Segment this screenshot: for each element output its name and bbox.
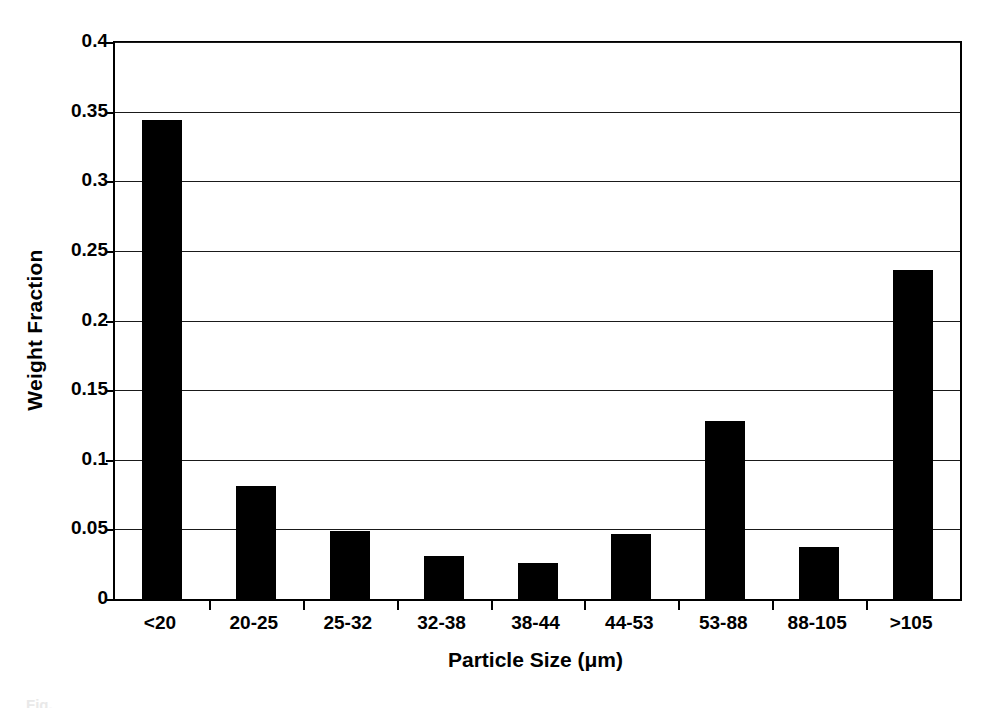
x-tick-label: <20 [144, 612, 176, 634]
bar [424, 556, 464, 599]
y-tick-mark [106, 599, 115, 601]
y-tick-label: 0.2 [46, 309, 108, 331]
bar [518, 563, 558, 599]
y-tick-mark [106, 390, 115, 392]
x-tick-mark [584, 599, 586, 610]
bar [799, 547, 839, 599]
x-tick-mark [772, 599, 774, 610]
x-tick-label: 88-105 [788, 612, 847, 634]
bar [705, 421, 745, 599]
x-tick-label: 38-44 [511, 612, 560, 634]
y-tick-label: 0.1 [46, 448, 108, 470]
y-tick-label: 0 [46, 587, 108, 609]
figure-container: Weight Fraction 00.050.10.150.20.250.30.… [0, 0, 986, 708]
x-tick-mark [303, 599, 305, 610]
x-axis-tick-labels: <2020-2525-3232-3838-4444-5353-8888-105>… [113, 612, 958, 646]
y-tick-label: 0.15 [46, 378, 108, 400]
figure-caption-stub: Fig. [26, 696, 53, 708]
plot-area [113, 41, 962, 601]
x-tick-label: 20-25 [230, 612, 279, 634]
x-axis-title: Particle Size (μm) [113, 648, 958, 672]
y-tick-label: 0.25 [46, 239, 108, 261]
y-tick-label: 0.05 [46, 517, 108, 539]
y-tick-mark [106, 181, 115, 183]
x-tick-mark [209, 599, 211, 610]
x-tick-label: 53-88 [699, 612, 748, 634]
x-tick-label: 32-38 [417, 612, 466, 634]
x-tick-label: >105 [890, 612, 933, 634]
x-tick-label: 44-53 [605, 612, 654, 634]
bar [611, 534, 651, 599]
y-tick-mark [106, 460, 115, 462]
x-tick-label: 25-32 [323, 612, 372, 634]
bar [142, 120, 182, 599]
bar [893, 270, 933, 599]
bar [330, 531, 370, 599]
y-tick-label: 0.3 [46, 169, 108, 191]
x-tick-mark [866, 599, 868, 610]
y-tick-mark [106, 251, 115, 253]
bar-series [115, 42, 960, 599]
y-tick-mark [106, 42, 115, 44]
y-axis-tick-labels: 00.050.10.150.20.250.30.350.4 [42, 0, 108, 708]
x-tick-mark [397, 599, 399, 610]
x-tick-mark [491, 599, 493, 610]
y-tick-mark [106, 529, 115, 531]
y-tick-mark [106, 112, 115, 114]
x-tick-mark [678, 599, 680, 610]
bar [236, 486, 276, 599]
y-tick-mark [106, 321, 115, 323]
y-tick-label: 0.4 [46, 30, 108, 52]
y-tick-label: 0.35 [46, 100, 108, 122]
